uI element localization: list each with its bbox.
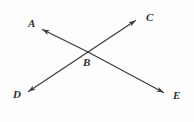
point-label-c: C [146,12,153,23]
ray-b-to-e [88,52,164,93]
geometry-figure: A B C D E [0,0,194,122]
ray-b-to-d [29,52,89,92]
point-label-b: B [83,57,90,68]
ray-b-to-a [43,30,89,53]
ray-b-to-c [88,21,136,53]
point-label-e: E [173,90,180,101]
point-label-d: D [13,89,21,100]
point-label-a: A [28,18,35,29]
